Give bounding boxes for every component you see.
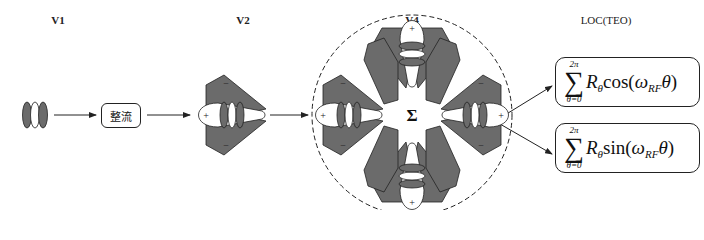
summation: 2π ∑ θ=0	[564, 60, 584, 104]
svg-text:−: −	[340, 78, 346, 89]
v4-sum-symbol: Σ	[406, 106, 417, 125]
svg-text:−: −	[223, 78, 229, 89]
formula-box-sin: 2π ∑ θ=0 Rθsin(ωRFθ)	[555, 123, 700, 173]
sigma-icon: ∑	[564, 69, 584, 95]
v4-unit-right: + − −	[441, 75, 509, 155]
formula-expression-sin: Rθsin(ωRFθ)	[586, 137, 674, 160]
v4-unit-left: + − −	[316, 75, 384, 155]
svg-text:+: +	[409, 197, 415, 208]
rectifier-box: 整流	[101, 103, 141, 128]
svg-text:+: +	[320, 110, 326, 121]
arrow-v4-to-sin	[500, 124, 552, 154]
svg-text:+: +	[498, 110, 504, 121]
svg-text:−: −	[340, 140, 346, 151]
summation: 2π ∑ θ=0	[564, 126, 584, 170]
svg-text:−: −	[478, 140, 484, 151]
svg-text:−: −	[478, 78, 484, 89]
formula-box-cos: 2π ∑ θ=0 Rθcos(ωRFθ)	[555, 57, 700, 107]
svg-text:−: −	[223, 140, 229, 151]
svg-text:+: +	[409, 23, 415, 34]
v2-receptive-field-icon: + − −	[199, 75, 267, 155]
v1-gabor-icon	[23, 102, 48, 128]
sigma-icon: ∑	[564, 135, 584, 161]
svg-text:+: +	[203, 110, 209, 121]
formula-expression-cos: Rθcos(ωRFθ)	[586, 71, 677, 94]
